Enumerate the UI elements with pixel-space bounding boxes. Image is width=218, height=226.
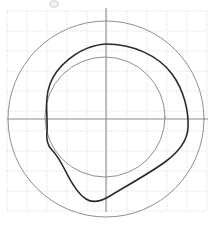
plot-canvas bbox=[0, 0, 218, 226]
figure-root bbox=[0, 0, 218, 226]
scan-smudge-icon bbox=[49, 0, 59, 8]
plot-background bbox=[0, 0, 218, 226]
